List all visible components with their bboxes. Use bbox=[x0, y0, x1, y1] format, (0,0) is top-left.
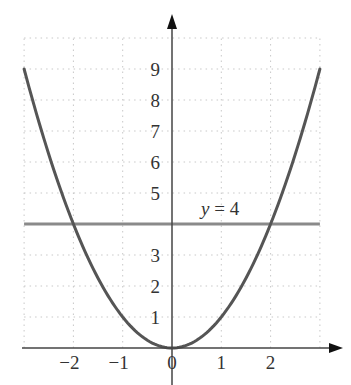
y-tick-label: 6 bbox=[151, 152, 161, 173]
axes bbox=[22, 14, 343, 385]
line-annotation: y = 4 bbox=[199, 198, 240, 219]
x-tick-label: 2 bbox=[266, 352, 276, 373]
annotation-variable: y bbox=[199, 198, 210, 219]
y-tick-label: 1 bbox=[151, 307, 161, 328]
y-tick-label: 7 bbox=[151, 121, 161, 142]
x-tick-label: 1 bbox=[217, 352, 227, 373]
y-tick-label: 9 bbox=[151, 59, 161, 80]
y-tick-label: 3 bbox=[151, 245, 161, 266]
y-tick-labels: 12356789 bbox=[151, 59, 161, 328]
x-axis-arrow-icon bbox=[329, 343, 343, 353]
x-tick-labels: −2−1012 bbox=[59, 352, 275, 373]
y-tick-label: 8 bbox=[151, 90, 161, 111]
annotation-equation: = 4 bbox=[209, 198, 239, 219]
x-tick-label: −2 bbox=[59, 352, 79, 373]
parabola-chart: −2−1012 12356789 y = 4 bbox=[0, 0, 351, 385]
y-tick-label: 2 bbox=[151, 276, 161, 297]
y-axis-arrow-icon bbox=[167, 14, 177, 29]
x-tick-label: 0 bbox=[167, 352, 177, 373]
x-tick-label: −1 bbox=[109, 352, 129, 373]
y-tick-label: 5 bbox=[151, 183, 161, 204]
